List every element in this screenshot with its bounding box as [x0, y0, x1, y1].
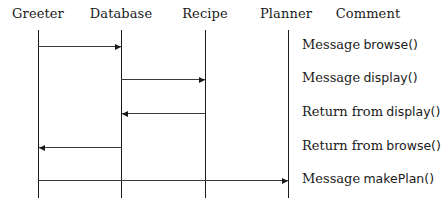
lifeline-planner: [288, 30, 289, 198]
message-arrow-display: [121, 79, 205, 80]
return-arrow-browse: [39, 147, 121, 148]
participant-planner-label: Planner: [260, 6, 312, 21]
comment-prefix: Message: [302, 171, 360, 186]
participant-recipe-label: Recipe: [182, 6, 228, 21]
comment-return-browse: Return from browse(): [302, 138, 441, 154]
comment-method: makePlan(): [363, 171, 434, 186]
comment-message-makeplan: Message makePlan(): [302, 171, 434, 187]
arrowhead-right-icon: [199, 77, 205, 83]
return-arrow-display: [122, 113, 205, 114]
comment-method: display(): [363, 70, 417, 85]
lifeline-recipe: [205, 30, 206, 198]
comment-column-header: Comment: [336, 6, 400, 21]
arrowhead-right-icon: [115, 44, 121, 50]
arrowhead-left-icon: [39, 145, 45, 151]
comment-message-display: Message display(): [302, 70, 418, 86]
comment-method: display(): [386, 104, 440, 119]
participant-greeter-label: Greeter: [12, 6, 64, 21]
arrowhead-left-icon: [122, 111, 128, 117]
comment-prefix: Message: [302, 37, 360, 52]
participant-database-label: Database: [90, 6, 152, 21]
comment-message-browse: Message browse(): [302, 37, 418, 53]
message-arrow-browse: [38, 46, 121, 47]
arrowhead-right-icon: [282, 178, 288, 184]
sequence-diagram: Greeter Database Recipe Planner Comment …: [0, 0, 446, 206]
lifeline-greeter: [38, 30, 39, 198]
comment-return-display: Return from display(): [302, 104, 440, 120]
comment-prefix: Return from: [302, 138, 383, 153]
comment-method: browse(): [386, 138, 441, 153]
message-arrow-makeplan: [38, 180, 288, 181]
comment-method: browse(): [363, 37, 418, 52]
comment-prefix: Message: [302, 70, 360, 85]
comment-prefix: Return from: [302, 104, 383, 119]
